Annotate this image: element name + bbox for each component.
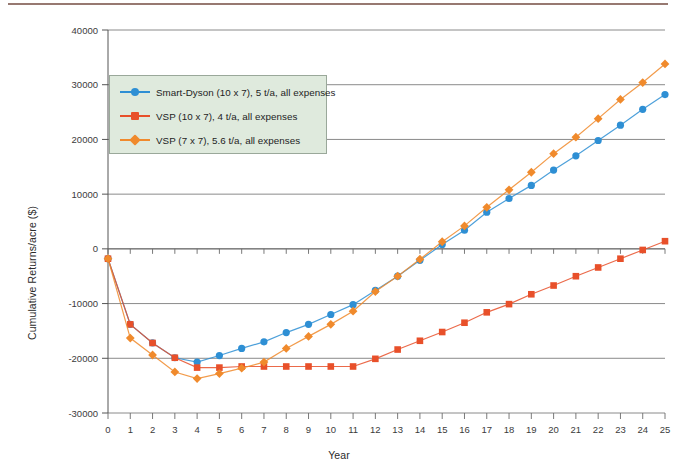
legend-item-smart-dyson[interactable]: Smart-Dyson (10 x 7), 5 t/a, all expense… — [120, 83, 336, 101]
data-point-square — [439, 329, 446, 336]
y-tick-label: -10000 — [68, 298, 98, 309]
legend-label-smart-dyson: Smart-Dyson (10 x 7), 5 t/a, all expense… — [156, 87, 336, 98]
data-point-diamond — [326, 320, 335, 329]
series-1 — [105, 238, 669, 371]
x-tick-label: 24 — [637, 424, 648, 435]
data-point-circle — [639, 106, 646, 113]
data-point-circle — [617, 122, 624, 129]
data-point-circle — [305, 321, 312, 328]
x-tick-label: 15 — [437, 424, 448, 435]
legend-marker-diamond-icon — [129, 134, 140, 145]
y-tick-label: -20000 — [68, 353, 98, 364]
chart-legend: Smart-Dyson (10 x 7), 5 t/a, all expense… — [109, 75, 327, 154]
data-point-circle — [260, 338, 267, 345]
data-point-circle — [238, 345, 245, 352]
chart-figure: -30000-20000-10000010000200003000040000 … — [0, 0, 678, 471]
data-point-square — [573, 273, 580, 280]
x-axis-group: 0123456789101112131415161718192021222324… — [105, 249, 670, 435]
data-point-circle — [595, 137, 602, 144]
data-point-square — [617, 255, 624, 262]
data-point-square — [350, 363, 357, 370]
x-tick-label: 19 — [526, 424, 537, 435]
data-point-square — [172, 354, 179, 361]
data-point-diamond — [282, 344, 291, 353]
legend-swatch-diamond-icon — [120, 134, 150, 146]
y-tick-label: 20000 — [72, 134, 98, 145]
x-tick-label: 22 — [593, 424, 604, 435]
x-tick-label: 18 — [504, 424, 515, 435]
x-tick-label: 10 — [326, 424, 337, 435]
legend-item-vsp-7x7[interactable]: VSP (7 x 7), 5.6 t/a, all expenses — [120, 131, 300, 149]
data-point-square — [417, 337, 424, 344]
legend-swatch-square-icon — [120, 110, 150, 122]
x-tick-label: 9 — [306, 424, 311, 435]
x-tick-label: 23 — [615, 424, 626, 435]
x-tick-label: 3 — [172, 424, 177, 435]
data-point-circle — [550, 166, 557, 173]
y-tick-label: 0 — [93, 243, 98, 254]
x-tick-label: 0 — [105, 424, 110, 435]
x-tick-label: 7 — [261, 424, 266, 435]
data-point-diamond — [193, 374, 202, 383]
data-point-circle — [505, 195, 512, 202]
line-chart-plot: -30000-20000-10000010000200003000040000 … — [0, 0, 678, 471]
data-point-circle — [572, 152, 579, 159]
x-tick-label: 11 — [348, 424, 358, 435]
x-tick-label: 25 — [660, 424, 671, 435]
data-point-square — [662, 238, 669, 245]
legend-marker-square-icon — [131, 112, 139, 120]
series-line — [108, 241, 665, 367]
data-point-square — [149, 340, 156, 347]
data-point-square — [639, 247, 646, 254]
x-tick-label: 8 — [284, 424, 289, 435]
data-point-square — [305, 363, 312, 370]
data-point-square — [283, 363, 290, 370]
data-point-square — [461, 319, 468, 326]
legend-label-vsp-10x7: VSP (10 x 7), 4 t/a, all expenses — [156, 111, 297, 122]
data-point-square — [595, 264, 602, 271]
y-tick-label: 40000 — [72, 25, 98, 36]
data-point-circle — [216, 352, 223, 359]
x-tick-label: 12 — [370, 424, 381, 435]
legend-label-vsp-7x7: VSP (7 x 7), 5.6 t/a, all expenses — [156, 135, 300, 146]
x-tick-label: 2 — [150, 424, 155, 435]
data-point-square — [394, 346, 401, 353]
data-point-circle — [661, 91, 668, 98]
data-point-square — [550, 282, 557, 289]
data-point-circle — [528, 182, 535, 189]
data-point-square — [528, 291, 535, 298]
x-tick-label: 17 — [481, 424, 492, 435]
x-tick-label: 4 — [194, 424, 199, 435]
legend-item-vsp-10x7[interactable]: VSP (10 x 7), 4 t/a, all expenses — [120, 107, 297, 125]
x-tick-label: 1 — [128, 424, 133, 435]
data-point-circle — [327, 311, 334, 318]
data-point-square — [194, 364, 201, 371]
x-axis-title: Year — [0, 449, 678, 461]
y-tick-label: 10000 — [72, 189, 98, 200]
legend-marker-circle-icon — [131, 88, 139, 96]
legend-swatch-circle-icon — [120, 86, 150, 98]
x-tick-label: 16 — [459, 424, 470, 435]
x-tick-label: 13 — [392, 424, 403, 435]
x-tick-label: 6 — [239, 424, 244, 435]
x-tick-label: 5 — [217, 424, 222, 435]
y-axis-title: Cumulative Returns/acre ($) — [26, 206, 38, 340]
data-point-square — [328, 363, 335, 370]
data-point-square — [506, 301, 513, 308]
y-axis-ticks-group: -30000-20000-10000010000200003000040000 — [68, 25, 108, 419]
x-tick-label: 21 — [571, 424, 582, 435]
x-tick-label: 20 — [548, 424, 559, 435]
data-point-square — [483, 309, 490, 316]
y-tick-label: 30000 — [72, 79, 98, 90]
x-tick-label: 14 — [415, 424, 426, 435]
data-point-diamond — [304, 332, 313, 341]
data-point-square — [372, 356, 379, 363]
data-point-circle — [283, 329, 290, 336]
data-point-square — [127, 321, 134, 328]
y-tick-label: -30000 — [68, 408, 98, 419]
